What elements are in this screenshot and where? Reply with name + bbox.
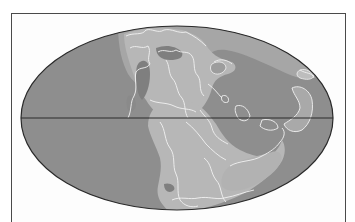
world-map — [0, 0, 355, 222]
